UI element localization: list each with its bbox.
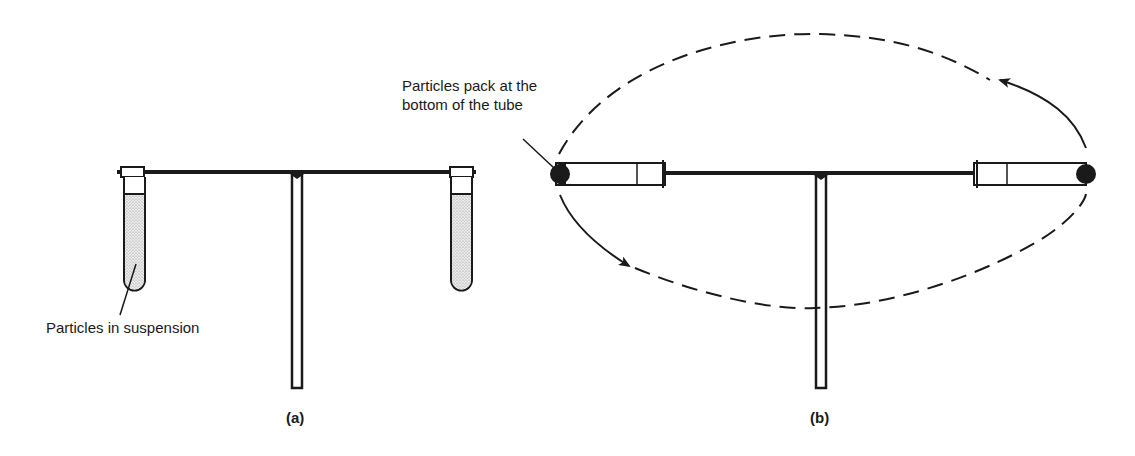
pellet-label-line2: bottom of the tube [402, 96, 523, 113]
rotation-path-bottom [635, 194, 1086, 308]
panel-b-caption: (b) [810, 409, 829, 426]
rotor-shaft [290, 174, 304, 388]
pellet-right [1076, 164, 1096, 184]
rotation-arrow-bottom [560, 195, 629, 266]
tube-right [450, 167, 473, 291]
panel-a: Particles in suspension (a) [46, 167, 476, 426]
centrifuge-diagram: Particles in suspension (a) [0, 0, 1135, 456]
suspension-label: Particles in suspension [46, 319, 199, 336]
tube-left-spinning [550, 160, 665, 188]
rotation-arrow-top [1000, 80, 1086, 148]
rotor-arm-spinning [640, 171, 1006, 175]
rotor-arm [117, 170, 476, 174]
pellet-label-line1: Particles pack at the [402, 77, 537, 94]
rotation-path-top [559, 34, 990, 154]
pellet-leader-line [523, 139, 554, 168]
rotor-shaft-spinning [814, 175, 828, 388]
panel-a-caption: (a) [286, 409, 304, 426]
suspension-right [452, 195, 471, 290]
tube-right-spinning [974, 160, 1096, 188]
panel-b: Particles pack at the bottom of the tube… [402, 34, 1096, 426]
suspension-left [125, 195, 144, 290]
